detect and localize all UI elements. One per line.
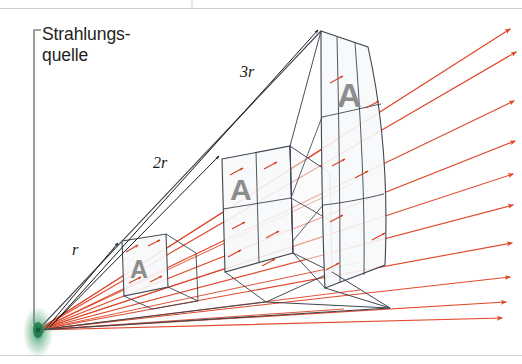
area-letter-far: A <box>337 76 362 115</box>
distance-label-3r: 3r <box>240 63 254 81</box>
source-caption: Strahlungs- quelle <box>42 24 130 67</box>
radiation-source-point <box>23 306 53 358</box>
source-leader-line <box>34 30 44 333</box>
distance-label-2r: 2r <box>153 154 167 172</box>
area-letter-mid: A <box>230 173 252 207</box>
distance-label-r: r <box>72 241 78 259</box>
area-letter-near: A <box>130 255 148 284</box>
figure-canvas: Strahlungs- quelle r 2r 3r A A A <box>0 0 522 364</box>
